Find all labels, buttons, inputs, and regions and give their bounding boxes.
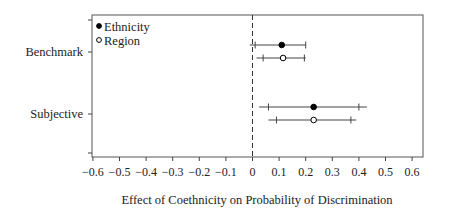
x-tick-label: 0.4 xyxy=(351,165,366,179)
filled-circle-marker xyxy=(279,42,285,48)
open-circle-marker xyxy=(280,55,286,61)
plot-border xyxy=(92,15,423,157)
x-tick-label: −0.5 xyxy=(109,165,131,179)
open-circle-marker xyxy=(311,117,317,123)
legend-open-circle-icon xyxy=(97,38,102,43)
category-label-subjective: Subjective xyxy=(30,107,83,121)
estimate-ethnicity-benchmark xyxy=(250,42,306,49)
x-tick-label: −0.3 xyxy=(162,165,184,179)
y-axis: BenchmarkSubjective xyxy=(25,20,92,153)
x-tick-label: −0.4 xyxy=(135,165,157,179)
x-tick-label: 0.3 xyxy=(325,165,340,179)
x-tick-label: −0.1 xyxy=(215,165,237,179)
x-tick-label: −0.6 xyxy=(82,165,104,179)
plot-frame xyxy=(92,15,423,157)
x-tick-label: −0.2 xyxy=(188,165,210,179)
x-tick-label: 0.5 xyxy=(378,165,393,179)
legend-label-region: Region xyxy=(104,34,141,48)
legend-label-ethnicity: Ethnicity xyxy=(104,20,151,34)
estimate-region-benchmark xyxy=(256,55,305,62)
x-tick-label: 0.1 xyxy=(272,165,287,179)
category-label-benchmark: Benchmark xyxy=(25,45,83,59)
data-series xyxy=(250,42,367,124)
x-tick-label: 0.2 xyxy=(298,165,313,179)
x-axis-title: Effect of Coethnicity on Probability of … xyxy=(121,193,393,207)
legend-filled-circle-icon xyxy=(97,24,102,29)
estimate-ethnicity-subjective xyxy=(259,104,367,111)
x-tick-label: 0 xyxy=(250,165,256,179)
legend: EthnicityRegion xyxy=(97,20,151,48)
filled-circle-marker xyxy=(311,104,317,110)
x-tick-label: 0.6 xyxy=(405,165,420,179)
coefficient-plot: −0.6−0.5−0.4−0.3−0.2−0.100.10.20.30.40.5… xyxy=(0,0,450,211)
estimate-region-subjective xyxy=(268,117,356,124)
x-axis: −0.6−0.5−0.4−0.3−0.2−0.100.10.20.30.40.5… xyxy=(82,157,420,179)
